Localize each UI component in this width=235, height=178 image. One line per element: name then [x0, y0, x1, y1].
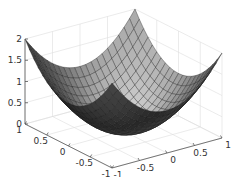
- plot-canvas: 00.511.52 10.50-0.5-1 -1-0.500.51: [0, 0, 235, 177]
- z-tick-label: 1: [16, 77, 22, 87]
- y-tick-label: -1: [102, 169, 111, 177]
- x-tick-label: 0: [170, 155, 176, 165]
- x-tick-label: 0.5: [193, 148, 207, 158]
- z-tick-label: 2: [16, 34, 22, 44]
- z-tick-label: 1.5: [8, 55, 22, 65]
- x-tick-label: -1: [114, 170, 123, 177]
- y-tick-label: 0: [60, 147, 66, 157]
- surface-plot: 00.511.52 10.50-0.5-1 -1-0.500.51: [0, 0, 235, 177]
- z-tick-label: 0.5: [8, 98, 22, 108]
- x-tick-label: 1: [225, 140, 231, 150]
- y-tick-label: -0.5: [75, 158, 93, 168]
- x-tick-label: -0.5: [137, 163, 155, 173]
- x-axis-ticks: -1-0.500.51: [111, 136, 231, 178]
- y-tick-label: 0.5: [34, 136, 48, 146]
- y-tick-label: 1: [16, 125, 22, 135]
